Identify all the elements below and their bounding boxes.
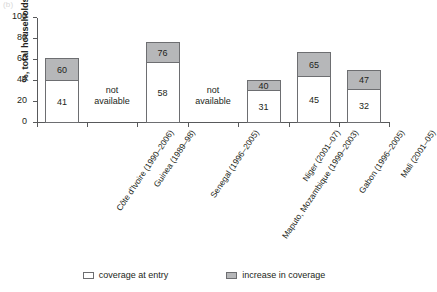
not-available-line1-guinea: not (94, 85, 130, 96)
bar-label-entry-mali: 32 (348, 102, 380, 111)
bar-label-total-mali: 47 (348, 76, 380, 85)
bar-label-total-niger: 40 (248, 81, 280, 90)
bar-label-total-senegal: 76 (147, 48, 179, 57)
bar-cote-divoire[interactable]: 60 41 (45, 58, 79, 123)
x-tick-7 (389, 123, 390, 127)
bar-label-total-cote-divoire: 60 (46, 65, 78, 74)
bar-slot-cote-divoire[interactable]: 60 41 (37, 18, 87, 123)
y-tick-label-40: 40 (5, 74, 27, 84)
bar-segment-entry-cote-divoire: 41 (45, 80, 79, 123)
x-tick-1 (87, 123, 88, 127)
gray-swatch-icon (226, 272, 237, 279)
bar-slot-mali[interactable]: 47 32 (339, 18, 389, 123)
white-swatch-icon (83, 272, 94, 279)
not-available-guinea: not available (94, 85, 130, 107)
y-tick-label-80: 80 (5, 32, 27, 42)
x-axis-label-maputo-mozambique: Maputo, Mozambique (1999–2003) (280, 128, 360, 240)
bar-niger[interactable]: 40 31 (247, 80, 281, 123)
chart-legend: coverage at entry increase in coverage (0, 270, 408, 280)
x-axis-label-senegal: Senegal (1996–2005) (208, 128, 261, 200)
not-available-maputo-mozambique: not available (195, 85, 231, 107)
bar-label-entry-niger: 31 (248, 102, 280, 111)
bar-gabon[interactable]: 65 45 (297, 52, 331, 123)
bar-slot-senegal[interactable]: 76 58 (137, 18, 188, 123)
bar-mali[interactable]: 47 32 (347, 70, 381, 123)
x-tick-5 (289, 123, 290, 127)
bar-segment-increase-senegal: 76 (146, 42, 180, 62)
y-tick-label-20: 20 (5, 95, 27, 105)
bar-segment-entry-mali: 32 (347, 89, 381, 123)
y-tick-label-100: 100 (5, 11, 27, 21)
bar-label-entry-cote-divoire: 41 (46, 97, 78, 106)
x-tick-4 (238, 123, 239, 127)
bar-label-entry-senegal: 58 (147, 88, 179, 97)
x-tick-0 (37, 123, 38, 127)
legend-item-increase-in-coverage[interactable]: increase in coverage (226, 270, 325, 280)
bar-slot-niger[interactable]: 40 31 (238, 18, 289, 123)
y-tick-label-0: 0 (5, 116, 27, 126)
legend-label-coverage-at-entry: coverage at entry (99, 270, 169, 280)
bar-label-entry-gabon: 45 (298, 95, 330, 104)
plot-area: 0 20 40 60 80 100 60 (37, 18, 390, 123)
y-tick-label-60: 60 (5, 53, 27, 63)
bar-label-total-gabon: 65 (298, 60, 330, 69)
bar-segment-entry-niger: 31 (247, 90, 281, 123)
bar-segment-increase-cote-divoire: 60 (45, 58, 79, 80)
bar-slot-maputo-mozambique[interactable]: not available (188, 18, 238, 123)
bar-segment-entry-gabon: 45 (297, 76, 331, 123)
not-available-line2-guinea: available (94, 96, 130, 107)
bar-senegal[interactable]: 76 58 (146, 42, 180, 123)
x-tick-2 (137, 123, 138, 127)
bar-segment-entry-senegal: 58 (146, 62, 180, 123)
bar-segment-increase-gabon: 65 (297, 52, 331, 76)
bar-segment-increase-niger: 40 (247, 80, 281, 90)
legend-item-coverage-at-entry[interactable]: coverage at entry (83, 270, 169, 280)
bar-slot-gabon[interactable]: 65 45 (289, 18, 339, 123)
x-axis-label-gabon: Gabon (1996–2005) (357, 128, 407, 195)
legend-label-increase-in-coverage: increase in coverage (242, 270, 325, 280)
not-available-line2-maputo: available (195, 96, 231, 107)
bar-slot-guinea[interactable]: not available (87, 18, 137, 123)
bar-segment-increase-mali: 47 (347, 70, 381, 89)
not-available-line1-maputo: not (195, 85, 231, 96)
x-tick-6 (339, 123, 340, 127)
